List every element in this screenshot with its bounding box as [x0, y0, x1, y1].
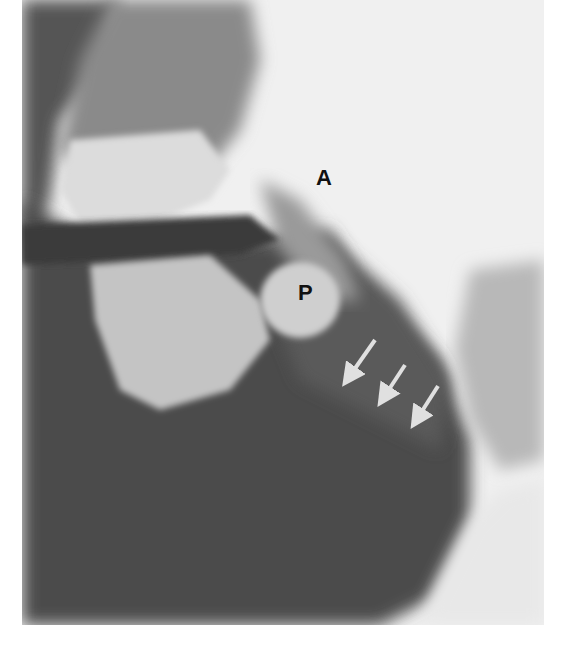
arrows-overlay: [22, 0, 544, 625]
arrow-icon: [417, 386, 438, 419]
radiograph-frame: A P: [22, 0, 544, 625]
arrow-icon: [384, 365, 405, 397]
arrow-icon: [349, 340, 375, 377]
